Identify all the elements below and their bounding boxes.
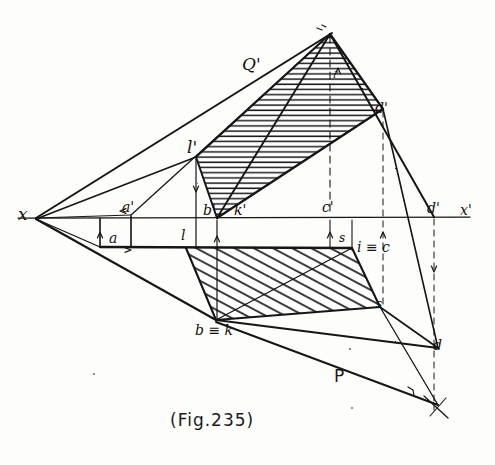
label-a-prime: a' xyxy=(122,200,134,214)
apex-ticks xyxy=(317,25,326,30)
label-d-prime-ground: d' xyxy=(427,201,440,215)
label-s: s xyxy=(339,232,345,244)
label-i-equiv-c: i ≡ c xyxy=(357,240,390,254)
paper-speck xyxy=(349,348,351,350)
figure-caption: (Fig.235) xyxy=(170,410,254,430)
label-d: d xyxy=(433,338,442,352)
label-plane-p: P xyxy=(334,366,345,386)
label-x: x xyxy=(18,206,28,223)
label-c-prime: c' xyxy=(322,200,334,214)
label-b-equiv-k: b ≡ k xyxy=(195,323,233,337)
label-b-prime: b' xyxy=(203,203,216,217)
drawing-strokes xyxy=(18,25,470,418)
convergence-point xyxy=(424,396,448,418)
paper-speck xyxy=(93,373,95,375)
paper-speck xyxy=(351,407,353,409)
label-plane-q-prime: Q' xyxy=(242,56,261,73)
label-l: l xyxy=(181,228,185,242)
label-a: a xyxy=(109,231,117,245)
figure-canvas: x x' a' a l l' b' k' b ≡ k c' s i ≡ c d'… xyxy=(0,0,495,465)
label-x-prime: x' xyxy=(460,203,472,217)
label-i-prime: i' xyxy=(333,70,339,80)
label-s-lower: s xyxy=(376,298,382,310)
label-d-prime-upper: d' xyxy=(375,101,388,115)
label-l-prime: l' xyxy=(187,139,197,156)
hatched-region-upper xyxy=(196,34,383,218)
label-k-prime: k' xyxy=(234,203,246,217)
